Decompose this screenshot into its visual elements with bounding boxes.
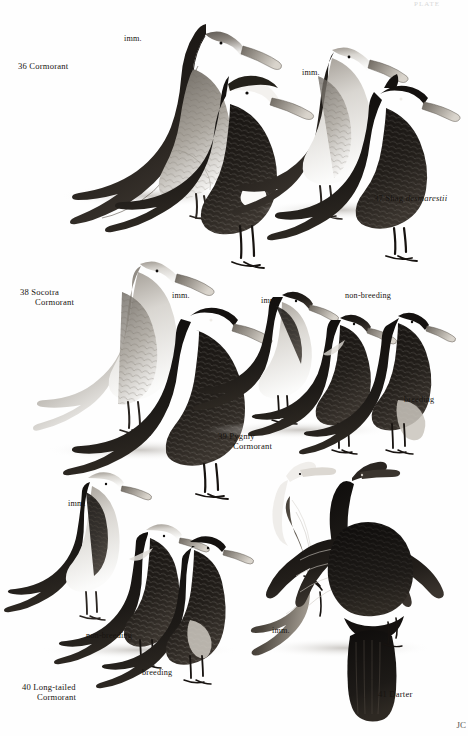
species-label-37: 37 Shag desmarestii xyxy=(374,194,447,204)
species-label-40: 40 Long-tailed Cormorant xyxy=(22,683,76,703)
species-name-39-line2: Cormorant xyxy=(218,442,272,452)
species-name-40: Long-tailed xyxy=(33,682,75,692)
species-label-39: 39 Pygmy Cormorant xyxy=(218,432,272,452)
species-number-37: 37 xyxy=(374,193,383,203)
species-name-38: Socotra xyxy=(31,287,59,297)
annotation-39-breeding: breeding xyxy=(404,395,434,404)
species-number-38: 38 xyxy=(20,287,29,297)
species-number-36: 36 xyxy=(18,61,27,71)
species-number-39: 39 xyxy=(218,431,227,441)
species-name-36: Cormorant xyxy=(29,61,68,71)
bird-illustrations xyxy=(0,0,468,736)
species-name-41: Darter xyxy=(389,689,412,699)
species-name-40-line2: Cormorant xyxy=(22,693,76,703)
species-label-36: 36 Cormorant xyxy=(18,62,68,72)
annotation-36-imm: imm. xyxy=(124,34,142,43)
annotation-41-imm: imm. xyxy=(272,626,290,635)
illustration-plate: PLATE xyxy=(0,0,468,736)
species-label-38: 38 Socotra Cormorant xyxy=(20,288,74,308)
annotation-39-non-breeding: non-breeding xyxy=(345,291,391,300)
annotation-40-imm: imm. xyxy=(68,499,86,508)
annotation-40-non-breeding: non-breeding xyxy=(86,631,132,640)
species-scientific-37: desmarestii xyxy=(406,193,448,203)
species-name-39: Pygmy xyxy=(229,431,254,441)
species-name-38-line2: Cormorant xyxy=(20,298,74,308)
species-label-41: 41 Darter xyxy=(378,690,413,700)
artist-signature: JC xyxy=(456,720,466,730)
species-name-37: Shag xyxy=(385,193,403,203)
bird-40-longtailed-group xyxy=(4,472,254,688)
annotation-37-imm: imm. xyxy=(302,68,320,77)
bird-41-darter-group xyxy=(251,462,444,722)
species-number-41: 41 xyxy=(378,689,387,699)
bird-36-cormorant-group xyxy=(58,24,314,268)
annotation-38-imm: imm. xyxy=(172,291,190,300)
annotation-40-breeding: breeding xyxy=(142,668,172,677)
species-number-40: 40 xyxy=(22,682,31,692)
annotation-39-imm: imm. xyxy=(261,296,279,305)
